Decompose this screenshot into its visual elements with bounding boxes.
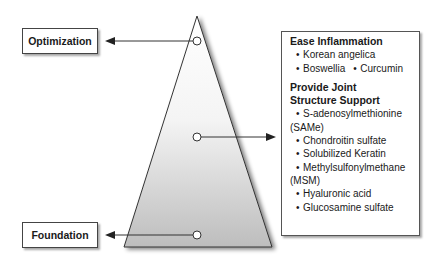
list-item: Solubilized Keratin	[296, 147, 413, 160]
list-item: Glucosamine sulfate	[296, 201, 413, 214]
ease-inflammation-list: Korean angelica	[290, 48, 413, 61]
joint-support-list: S-adenosylmethionine (SAMe) Chondroitin …	[290, 107, 413, 213]
ease-inflammation-title: Ease Inflammation	[290, 35, 413, 48]
arrowhead-right-icon	[266, 133, 276, 141]
list-item: Methylsulfonylmethane	[296, 161, 413, 174]
joint-support-title-line2: Structure Support	[290, 94, 413, 107]
foundation-label-box: Foundation	[22, 222, 98, 248]
arrowhead-left-icon	[105, 37, 115, 45]
list-item: Boswellia	[296, 62, 345, 75]
list-item: Curcumin	[353, 62, 403, 75]
list-item: Korean angelica	[296, 48, 413, 61]
optimization-label-box: Optimization	[22, 28, 98, 54]
joint-support-title-line1: Provide Joint	[290, 81, 413, 94]
list-item-continuation: (MSM)	[290, 174, 413, 187]
ease-inflammation-inline-list: Boswellia Curcumin	[290, 62, 413, 75]
list-item: S-adenosylmethionine	[296, 107, 413, 120]
foundation-label: Foundation	[31, 229, 88, 241]
arrowhead-left-icon	[105, 231, 115, 239]
foundation-node	[193, 231, 201, 239]
pyramid-shape	[124, 16, 272, 247]
list-item: Chondroitin sulfate	[296, 134, 413, 147]
supplements-info-box: Ease Inflammation Korean angelica Boswel…	[281, 31, 420, 236]
list-item-continuation: (SAMe)	[290, 121, 413, 134]
optimization-node	[193, 37, 201, 45]
info-node	[193, 133, 201, 141]
optimization-label: Optimization	[28, 35, 92, 47]
list-item: Hyaluronic acid	[296, 187, 413, 200]
